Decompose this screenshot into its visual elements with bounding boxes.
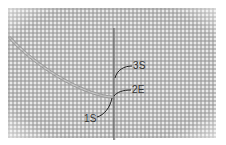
label-1S: 1S: [84, 113, 97, 124]
leader-2E: [114, 90, 131, 96]
leader-1S: [97, 98, 112, 117]
label-2E: 2E: [132, 84, 145, 95]
leader-3S: [115, 66, 132, 78]
needlepoint-photo: 3S 2E 1S: [0, 0, 226, 145]
label-3S: 3S: [133, 60, 146, 71]
thread: [10, 38, 112, 97]
stitch-illustration: [0, 0, 226, 145]
